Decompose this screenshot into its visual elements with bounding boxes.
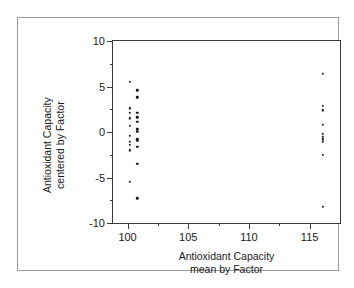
scatter-point [129,181,131,183]
scatter-point [129,134,131,136]
scatter-point [129,81,131,83]
y-axis-title-line-1: Antioxidant Capacity [41,65,54,225]
scatter-point [322,104,324,106]
scatter-point [129,112,131,114]
x-axis-minor-tick [219,223,220,226]
x-axis-tick-label: 110 [240,232,258,243]
x-axis-minor-tick [158,223,159,226]
x-axis-tick [249,223,250,229]
scatter-point [136,116,138,118]
scatter-point [136,131,138,133]
y-axis-tick [107,132,113,133]
scatter-point [322,124,324,126]
x-axis-tick-label: 115 [301,232,319,243]
scatter-point [129,124,131,126]
x-axis-tick-label: 105 [179,232,197,243]
scatter-point [136,145,138,147]
y-axis-minor-tick [110,155,113,156]
scatter-point [136,89,138,91]
scatter-point [136,112,138,114]
x-axis-title: Antioxidant Capacity mean by Factor [112,250,341,276]
scatter-point [129,117,131,119]
x-axis-title-line-2: mean by Factor [112,263,341,276]
figure-outer-frame: 1050-5-10 100105110115 Antioxidant Capac… [17,17,339,271]
scatter-point [322,109,324,111]
y-axis-tick-label: -5 [95,172,105,183]
y-axis-title-line-2: centered by Factor [54,65,67,225]
y-axis-minor-tick [110,64,113,65]
y-axis-tick-label: 10 [93,36,105,47]
scatter-point [136,121,138,123]
scatter-point [322,141,324,143]
x-axis-tick [188,223,189,229]
scatter-point [129,144,131,146]
scatter-point [136,197,138,199]
x-axis-minor-tick [279,223,280,226]
y-axis-tick-label: -10 [89,218,105,229]
plot-area: 1050-5-10 100105110115 [112,40,341,224]
x-axis-tick [310,223,311,229]
scatter-point [129,149,131,151]
y-axis-tick [107,178,113,179]
scatter-point [136,140,138,142]
scatter-point [129,107,131,109]
y-axis-title: Antioxidant Capacity centered by Factor [41,65,67,225]
scatter-point [322,73,324,75]
scatter-point [136,96,138,98]
y-axis-minor-tick [110,109,113,110]
y-axis-tick [107,87,113,88]
y-axis-tick-label: 0 [99,127,105,138]
x-axis-title-line-1: Antioxidant Capacity [112,250,341,263]
x-axis-tick [128,223,129,229]
y-axis-tick [107,223,113,224]
scatter-point [322,154,324,156]
x-axis-tick-label: 100 [118,232,136,243]
scatter-point [136,163,138,165]
y-axis-minor-tick [110,200,113,201]
y-axis-tick [107,41,113,42]
y-axis-tick-label: 5 [99,81,105,92]
scatter-point [322,205,324,207]
